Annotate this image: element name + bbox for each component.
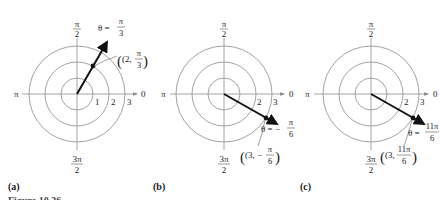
axis-label-3pi-over-2-den: 2 xyxy=(369,165,374,175)
axis-label-pi-over-2-num: π xyxy=(369,19,374,29)
axis-label-pi-over-2-den: 2 xyxy=(222,29,227,39)
theta-label-num: π xyxy=(289,117,294,127)
point-label-close: ) xyxy=(143,53,148,70)
axis-label-zero: 0 xyxy=(433,89,438,99)
point-label-open: (3, − xyxy=(245,150,262,160)
theta-label-prefix: θ = xyxy=(408,128,420,138)
point-label-num: 11π xyxy=(398,144,411,154)
theta-label-den: 3 xyxy=(119,28,123,38)
angle-vector xyxy=(224,94,277,124)
polar-coordinates-figure: π 2 π 0 3π 2 1 2 3 θ = π 3 ( (2, π 3 ) (… xyxy=(0,0,440,200)
point-label-num: π xyxy=(268,144,273,154)
polar-point xyxy=(264,116,269,121)
axis-label-pi-over-2-den: 2 xyxy=(75,29,80,39)
ring-label-2: 2 xyxy=(111,97,116,107)
axis-label-pi-over-2-num: π xyxy=(75,19,80,29)
axis-label-pi: π xyxy=(161,89,166,99)
point-label-den: 6 xyxy=(268,156,272,166)
ring-label-3: 3 xyxy=(273,97,278,107)
point-label-open: (2, xyxy=(122,54,132,64)
axis-label-3pi-over-2-num: 3π xyxy=(366,154,376,164)
theta-label-num: π xyxy=(119,16,124,26)
ring-label-1: 1 xyxy=(95,97,100,107)
axis-label-zero: 0 xyxy=(141,89,146,99)
axis-label-3pi-over-2-den: 2 xyxy=(75,165,80,175)
axis-label-pi-over-2-den: 2 xyxy=(369,29,374,39)
axis-label-pi: π xyxy=(14,89,19,99)
angle-vector xyxy=(371,94,424,124)
point-label-close: ) xyxy=(412,149,417,166)
point-label-den: 6 xyxy=(402,156,406,166)
theta-label-prefix: θ = xyxy=(98,23,110,33)
axis-label-pi: π xyxy=(305,89,310,99)
figure-caption: Figure 10.36 xyxy=(8,195,61,200)
axis-label-3pi-over-2-den: 2 xyxy=(222,165,227,175)
panel-label-a: (a) xyxy=(8,181,20,193)
theta-label-den: 6 xyxy=(430,133,434,143)
panel-label-c: (c) xyxy=(300,181,311,193)
axis-label-3pi-over-2-num: 3π xyxy=(72,154,82,164)
point-label-open: (3, xyxy=(385,150,395,160)
panel-b: π 2 π 0 3π 2 2 3 θ = − π 6 ( (3, − π 6 )… xyxy=(153,19,295,193)
ring-label-3: 3 xyxy=(127,97,132,107)
point-label-den: 3 xyxy=(137,60,141,70)
ring-label-2: 2 xyxy=(404,97,409,107)
axis-label-3pi-over-2-num: 3π xyxy=(219,154,229,164)
panel-a: π 2 π 0 3π 2 1 2 3 θ = π 3 ( (2, π 3 ) (… xyxy=(8,16,148,193)
axis-label-zero: 0 xyxy=(289,89,294,99)
theta-label-prefix: θ = − xyxy=(261,124,280,134)
axis-label-pi-over-2-num: π xyxy=(222,19,227,29)
theta-label-num: 11π xyxy=(426,121,439,131)
panel-c: π 2 π 0 3π 2 2 3 θ = 11π 6 ( (3, 11π 6 )… xyxy=(300,19,439,193)
theta-label-den: 6 xyxy=(289,129,293,139)
ring-label-3: 3 xyxy=(420,97,425,107)
panel-label-b: (b) xyxy=(153,181,165,193)
polar-point xyxy=(411,116,416,121)
ring-label-2: 2 xyxy=(257,97,262,107)
point-label-close: ) xyxy=(275,149,280,166)
point-label-num: π xyxy=(137,48,142,58)
